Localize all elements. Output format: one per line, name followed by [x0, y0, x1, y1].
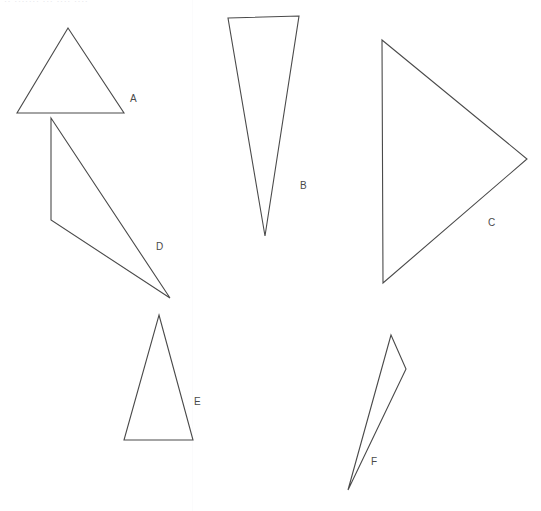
triangle-f-label: F [371, 457, 377, 467]
triangle-a-label: A [130, 94, 137, 104]
triangle-d-label: D [156, 242, 163, 252]
triangle-figure-canvas [0, 0, 541, 511]
triangle-c [382, 40, 527, 283]
triangle-c-label: C [488, 218, 495, 228]
worksheet-page: ·· ······· ··· ···· ···· ADBCEF [0, 0, 541, 511]
triangle-shapes-group [17, 16, 527, 490]
triangle-e-label: E [194, 397, 201, 407]
triangle-d [51, 118, 170, 298]
triangle-e [124, 315, 193, 440]
triangle-b-label: B [300, 181, 307, 191]
triangle-a [17, 28, 124, 113]
triangle-b [228, 16, 299, 236]
